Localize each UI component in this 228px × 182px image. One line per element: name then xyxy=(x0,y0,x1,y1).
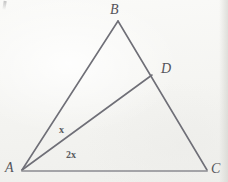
angle-label-bad: x xyxy=(59,125,64,135)
vertex-label-a: A xyxy=(5,161,14,175)
vertex-label-d: D xyxy=(161,62,171,76)
segment-AD xyxy=(22,75,152,170)
segment-BC xyxy=(118,21,207,170)
angle-label-dac: 2x xyxy=(66,150,76,160)
geometry-figure: A B C D x 2x xyxy=(0,0,228,182)
segment-AB xyxy=(22,21,118,170)
vertex-label-c: C xyxy=(211,162,220,176)
triangle-drawing xyxy=(0,0,228,182)
vertex-label-b: B xyxy=(110,3,119,17)
